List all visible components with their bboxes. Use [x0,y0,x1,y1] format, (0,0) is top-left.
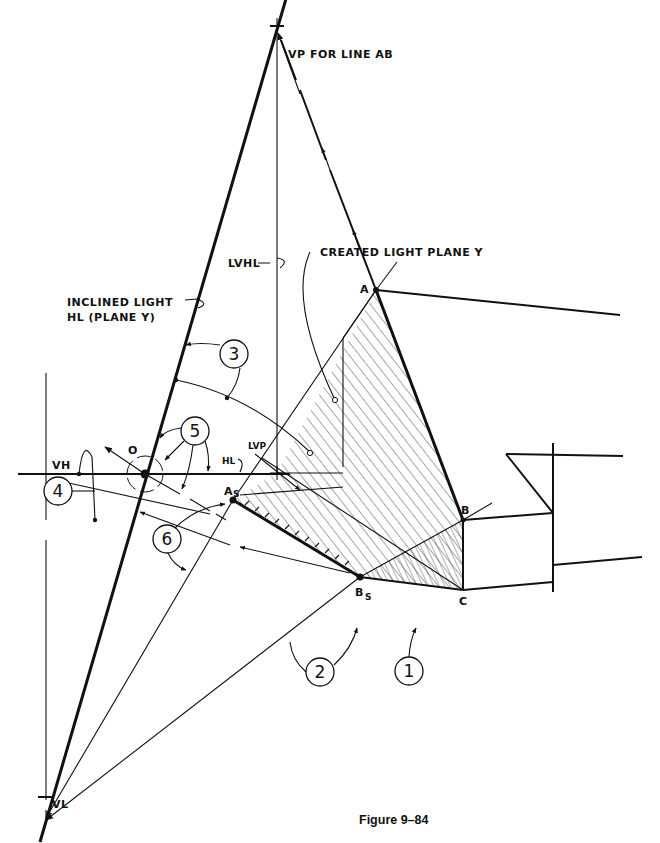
callout-5: 5 [160,417,209,489]
label-vp-for-line-ab: VP FOR LINE AB [288,48,393,61]
perspective-shadow-diagram: 3 5 4 6 2 1 VP FOR LINE AB LVHL CREATE [0,0,660,843]
callout-1: 1 [395,628,423,685]
svg-text:3: 3 [229,344,240,364]
callout-4: 4 [44,477,95,505]
shadow-hatched-region [233,290,463,590]
svg-text:2: 2 [315,662,326,682]
label-point-b: B [461,504,470,517]
label-point-c: C [459,595,468,608]
callout-3: 3 [186,340,248,398]
label-created-light-plane: CREATED LIGHT PLANE Y [320,246,483,259]
svg-text:1: 1 [404,661,415,681]
label-lvhl: LVHL [228,257,260,270]
label-point-bs-sub: S [365,592,371,602]
callout-2: 2 [290,628,357,686]
label-point-as: A [224,485,233,498]
svg-text:6: 6 [162,529,173,549]
label-inclined-light-1: INCLINED LIGHT [67,296,173,309]
callout-6: 6 [153,504,225,570]
label-o: O [128,444,138,457]
label-vl: VL [52,798,69,811]
label-hl: HL [222,456,236,466]
svg-text:4: 4 [53,481,64,501]
label-point-as-sub: S [233,489,239,499]
figure-caption: Figure 9–84 [359,813,429,827]
label-point-bs: B [355,586,364,599]
label-lvp: LVP [248,441,266,451]
svg-text:5: 5 [190,421,201,441]
label-inclined-light-2: HL (PLANE Y) [67,311,155,324]
label-point-a: A [360,283,369,296]
label-vh: VH [52,459,71,472]
